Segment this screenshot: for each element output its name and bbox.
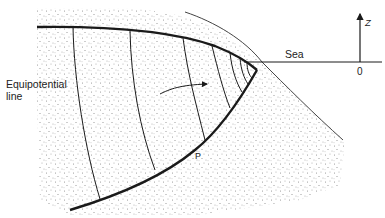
sea-label: Sea bbox=[285, 48, 304, 60]
origin-label: 0 bbox=[357, 66, 363, 78]
coastal-aquifer-diagram bbox=[0, 0, 385, 218]
equipotential-label-line2: line bbox=[6, 90, 22, 102]
interface-p-label: P bbox=[195, 150, 201, 162]
equipotential-label-line1: Equipotential bbox=[6, 78, 67, 90]
z-axis-label: Z bbox=[365, 17, 371, 29]
